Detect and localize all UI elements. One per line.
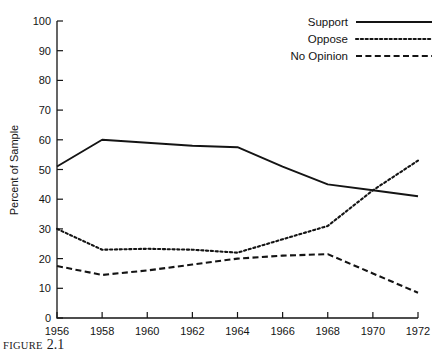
y-axis-tick-label: 40: [39, 193, 51, 205]
y-axis-tick-label: 60: [39, 134, 51, 146]
series-group: [57, 140, 418, 293]
y-axis-tick-label: 90: [39, 45, 51, 57]
figure-caption: FIGURE2.1: [3, 335, 64, 353]
y-axis-tick-label: 80: [39, 74, 51, 86]
legend-label-oppose: Oppose: [308, 33, 348, 45]
legend-label-no-opinion: No Opinion: [290, 50, 348, 62]
x-axis-tick-label: 1966: [270, 325, 294, 337]
figure-caption-number: 2.1: [47, 337, 65, 352]
chart-legend: SupportOpposeNo Opinion: [290, 16, 432, 62]
y-axis-tick-label: 30: [39, 223, 51, 235]
chart-axes: [57, 21, 418, 318]
figure-container: 0102030405060708090100 19561958196019621…: [0, 0, 444, 356]
series-line-no-opinion: [57, 254, 418, 293]
series-line-support: [57, 140, 418, 196]
x-axis-tick-label: 1960: [135, 325, 159, 337]
x-axis-tick-group: 195619581960196219641966196819701972: [45, 312, 430, 337]
x-axis-tick-label: 1970: [361, 325, 385, 337]
line-chart: 0102030405060708090100 19561958196019621…: [0, 0, 444, 356]
y-axis-tick-label: 100: [33, 15, 51, 27]
x-axis-tick-label: 1962: [180, 325, 204, 337]
x-axis-tick-label: 1968: [316, 325, 340, 337]
x-axis-tick-label: 1958: [90, 325, 114, 337]
y-axis-tick-label: 10: [39, 282, 51, 294]
y-axis-tick-group: 0102030405060708090100: [33, 15, 63, 324]
legend-label-support: Support: [308, 16, 349, 28]
y-axis-tick-label: 0: [45, 312, 51, 324]
y-axis-tick-label: 20: [39, 253, 51, 265]
series-line-oppose: [57, 161, 418, 253]
x-axis-tick-label: 1964: [225, 325, 249, 337]
y-axis-title: Percent of Sample: [8, 125, 20, 216]
y-axis-tick-label: 50: [39, 164, 51, 176]
y-axis-tick-label: 70: [39, 104, 51, 116]
figure-caption-label: FIGURE: [3, 340, 43, 351]
x-axis-tick-label: 1972: [406, 325, 430, 337]
